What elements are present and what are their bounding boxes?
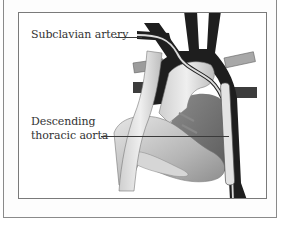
label-descending-line2: thoracic aorta [31, 129, 108, 143]
label-descending-aorta: Descending thoracic aorta [31, 115, 108, 143]
leader-line-descending [101, 136, 229, 137]
leader-line-subclavian [116, 37, 142, 38]
label-subclavian-artery: Subclavian artery [31, 28, 128, 42]
label-descending-line1: Descending [31, 115, 108, 129]
diagram-panel: Subclavian artery Descending thoracic ao… [18, 12, 267, 199]
